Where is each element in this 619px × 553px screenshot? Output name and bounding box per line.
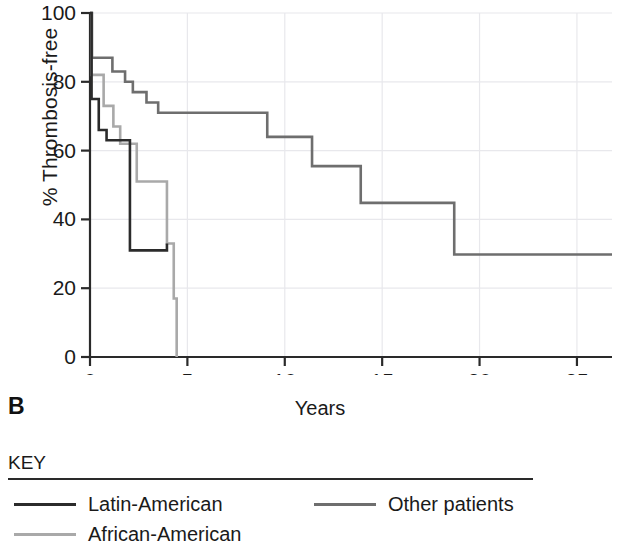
svg-text:0: 0 [84, 369, 96, 375]
svg-text:20: 20 [53, 276, 76, 299]
svg-text:5: 5 [182, 369, 194, 375]
legend-item-other-patients: Other patients [308, 493, 514, 516]
legend-item-latin-american: Latin-American [8, 493, 308, 516]
legend-divider [8, 478, 533, 480]
series-line-african-american [90, 13, 177, 357]
series-line-latin-american [90, 13, 167, 250]
svg-text:10: 10 [273, 369, 296, 375]
legend-item-african-american: African-American [8, 523, 308, 546]
legend-line-swatch-icon [14, 503, 76, 506]
legend-label: Latin-American [88, 493, 223, 516]
axis-ticks [81, 13, 577, 366]
chart-plot-area: 0204060801000510152025 [0, 0, 619, 375]
legend-row: Latin-American Other patients [8, 489, 608, 519]
y-axis-label: % Thrombosis-free [38, 0, 62, 267]
legend-line-swatch-icon [14, 533, 76, 536]
series-line-other-patients [90, 13, 612, 254]
svg-text:25: 25 [565, 369, 588, 375]
svg-text:0: 0 [64, 345, 76, 368]
legend-line-swatch-icon [314, 503, 376, 506]
legend-row: African-American [8, 519, 608, 549]
axis-tick-labels: 0204060801000510152025 [41, 1, 589, 375]
x-axis-label: Years [90, 397, 550, 420]
chart-legend: KEY Latin-American Other patients Africa… [8, 452, 608, 549]
svg-text:15: 15 [370, 369, 393, 375]
svg-text:20: 20 [468, 369, 491, 375]
legend-title: KEY [8, 452, 608, 476]
panel-label: B [8, 393, 25, 420]
kaplan-meier-chart: 0204060801000510152025 % Thrombosis-free [0, 0, 619, 375]
legend-label: Other patients [388, 493, 514, 516]
legend-entries: Latin-American Other patients African-Am… [8, 489, 608, 549]
legend-label: African-American [88, 523, 241, 546]
figure-panel-b: 0204060801000510152025 % Thrombosis-free… [0, 0, 619, 553]
grid-lines [90, 13, 612, 357]
data-series [90, 13, 612, 357]
